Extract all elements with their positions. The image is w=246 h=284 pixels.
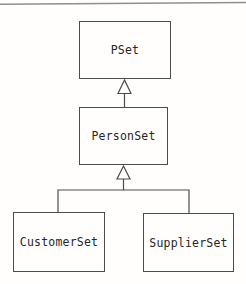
class-node-personset: PersonSet: [79, 107, 168, 165]
class-node-label: PSet: [111, 43, 140, 57]
class-node-label: SupplierSet: [149, 236, 227, 250]
class-node-label: PersonSet: [91, 129, 155, 143]
generalization-arrow-icon: [118, 80, 131, 94]
top-rule: [0, 2, 246, 4]
diagram-canvas: PSet PersonSet CustomerSet SupplierSet: [0, 0, 246, 284]
class-node-customerset: CustomerSet: [13, 212, 105, 272]
class-node-supplierset: SupplierSet: [143, 213, 234, 272]
class-node-label: CustomerSet: [20, 235, 98, 249]
class-node-pset: PSet: [79, 21, 171, 79]
generalization-arrow-icon: [117, 166, 130, 179]
edge-fork: [58, 190, 189, 213]
